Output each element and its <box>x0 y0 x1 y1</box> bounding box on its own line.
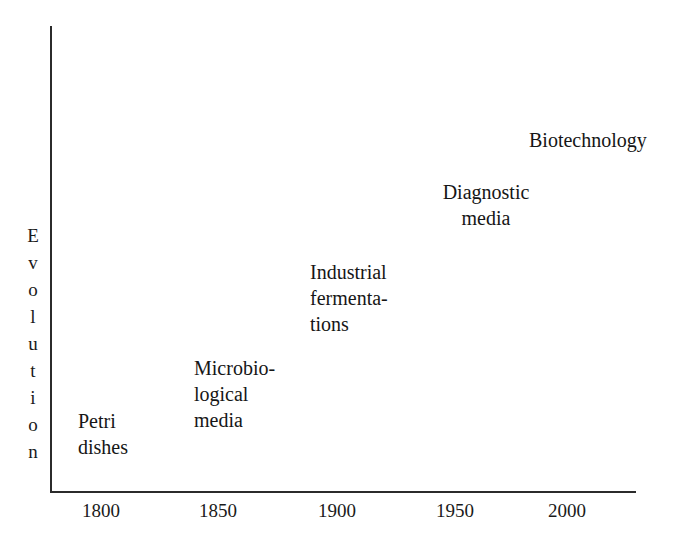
y-axis-title: E v o l u t i o n <box>22 222 44 465</box>
data-point-industrial-fermentations: Industrial fermenta- tions <box>310 259 388 337</box>
x-tick-label-2000: 2000 <box>527 500 607 522</box>
evolution-of-media-chart: E v o l u t i o n 1800 1850 1900 1950 20… <box>0 0 677 543</box>
y-axis-title-letter-0: E <box>22 222 44 249</box>
y-axis-line <box>50 26 52 493</box>
y-axis-title-letter-3: l <box>22 303 44 330</box>
y-axis-title-letter-8: n <box>22 438 44 465</box>
x-tick-label-1950: 1950 <box>415 500 495 522</box>
data-point-diagnostic-media: Diagnostic media <box>428 179 544 231</box>
y-axis-title-letter-5: t <box>22 357 44 384</box>
data-point-biotechnology: Biotechnology <box>529 127 647 153</box>
x-axis-line <box>50 491 636 493</box>
x-tick-label-1850: 1850 <box>178 500 258 522</box>
y-axis-title-letter-6: i <box>22 384 44 411</box>
x-tick-label-1900: 1900 <box>297 500 377 522</box>
data-point-petri-dishes: Petri dishes <box>78 408 128 460</box>
y-axis-title-letter-7: o <box>22 411 44 438</box>
data-point-microbiological-media: Microbio- logical media <box>194 355 275 433</box>
y-axis-title-letter-1: v <box>22 249 44 276</box>
x-tick-label-1800: 1800 <box>61 500 141 522</box>
y-axis-title-letter-2: o <box>22 276 44 303</box>
y-axis-title-letter-4: u <box>22 330 44 357</box>
